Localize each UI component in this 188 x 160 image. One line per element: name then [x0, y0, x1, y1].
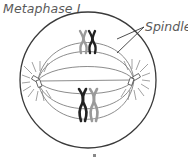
spindle-label-pointers	[117, 27, 144, 53]
metaphase-diagram	[0, 0, 188, 160]
homolog-dark-top	[89, 31, 96, 53]
chromosome-pair-top	[80, 31, 96, 53]
centrosome-right	[128, 74, 141, 86]
bottom-mark	[93, 154, 96, 157]
homolog-grey-top	[80, 31, 87, 53]
